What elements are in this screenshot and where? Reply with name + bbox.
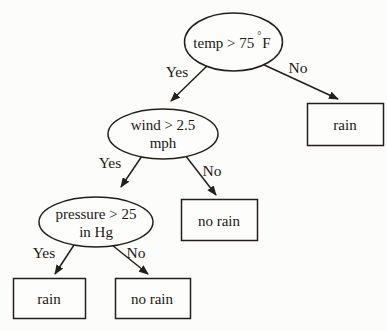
edge-temp-no-label: No <box>289 59 308 76</box>
node-pressure: pressure > 25in Hg <box>39 197 153 247</box>
node-pressure-label-line1: pressure > 25 <box>56 206 137 222</box>
decision-tree-diagram: Yes No Yes No Yes No temp > 75°F wind > … <box>0 0 387 330</box>
node-pressure-label-line2: in Hg <box>79 224 113 240</box>
edge-wind-yes-arrow <box>121 156 142 187</box>
leaf-rain-left-label: rain <box>37 291 61 307</box>
leaf-rain-left: rain <box>14 279 86 319</box>
leaf-no-rain-bottom: no rain <box>116 279 191 319</box>
edge-temp-yes-label: Yes <box>166 63 189 80</box>
decision-tree-svg: Yes No Yes No Yes No temp > 75°F wind > … <box>0 0 387 330</box>
node-temp-label-degree: ° <box>257 30 261 41</box>
edge-pressure-yes-label: Yes <box>33 244 56 261</box>
leaf-rain-right-label: rain <box>333 117 357 133</box>
leaf-no-rain-bottom-label: no rain <box>131 291 174 307</box>
edge-wind-no-label: No <box>203 162 222 179</box>
node-wind-label-line1: wind > 2.5 <box>131 117 196 133</box>
leaf-no-rain-mid-label: no rain <box>198 213 241 229</box>
node-temp-label-main: temp > 75 <box>193 35 254 51</box>
node-wind-label-line2: mph <box>150 135 177 151</box>
leaf-no-rain-mid: no rain <box>182 200 258 241</box>
node-temp: temp > 75°F <box>185 13 283 71</box>
leaf-rain-right: rain <box>308 104 384 146</box>
edge-pressure-no-label: No <box>127 244 146 261</box>
edge-pressure-yes-arrow <box>55 245 74 274</box>
node-temp-label-unit: F <box>262 35 270 51</box>
node-wind: wind > 2.5mph <box>108 109 218 159</box>
edge-wind-yes-label: Yes <box>99 154 122 171</box>
